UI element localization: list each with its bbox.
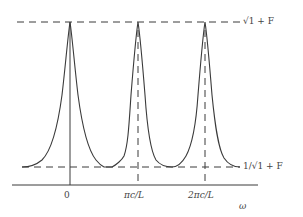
min-level-label: 1/√1 + F (243, 162, 283, 171)
tick-label-pi-c-over-L: πc/L (124, 191, 144, 200)
max-level-label: √1 + F (243, 17, 274, 26)
tick-label-zero: 0 (64, 191, 70, 200)
tick-label-two-pi-c-over-L: 2πc/L (188, 191, 214, 200)
transmission-curve (22, 22, 240, 167)
x-axis-label-omega: ω (239, 202, 246, 211)
transmission-diagram (0, 0, 303, 217)
